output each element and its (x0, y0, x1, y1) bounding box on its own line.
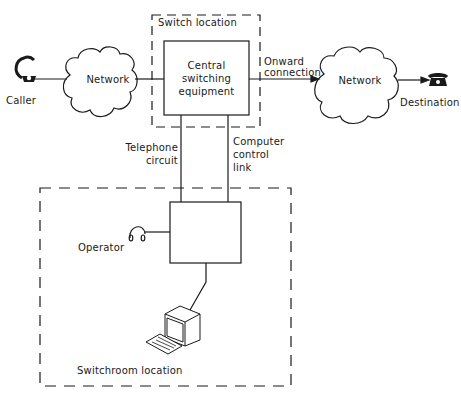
telephone-circuit-line-2: circuit (118, 155, 178, 166)
headset-icon (129, 227, 145, 241)
right-network-label: Network (330, 75, 390, 86)
switch-location-label: Switch location (158, 17, 237, 28)
computer-control-line-3: link (233, 162, 284, 173)
switchroom-location-label: Switchroom location (77, 365, 183, 376)
left-network-label: Network (78, 74, 138, 85)
telephone-handset-icon (16, 57, 36, 82)
destination-arrowhead (421, 77, 429, 83)
onward-line-2: connection (264, 67, 321, 78)
operator-console-box (170, 202, 241, 263)
computer-control-line-2: control (233, 149, 284, 160)
onward-connection-label: Onward connection (264, 56, 321, 78)
telephone-circuit-line-1: Telephone (118, 142, 178, 153)
computer-terminal-icon (146, 306, 200, 354)
telephone-circuit-label: Telephone circuit (118, 142, 178, 166)
terminal-link (190, 263, 206, 310)
equipment-line-1: Central (164, 60, 249, 71)
computer-control-link-label: Computer control link (233, 136, 284, 173)
central-switching-equipment-label: Central switching equipment (164, 60, 249, 97)
computer-control-line-1: Computer (233, 136, 284, 147)
equipment-line-2: switching (164, 73, 249, 84)
equipment-line-3: equipment (164, 86, 249, 97)
caller-label: Caller (6, 95, 36, 106)
telephone-icon (428, 73, 448, 86)
operator-label: Operator (78, 242, 124, 253)
switchroom-boundary (40, 188, 291, 386)
onward-line-1: Onward (264, 56, 321, 67)
destination-label: Destination (400, 97, 460, 108)
